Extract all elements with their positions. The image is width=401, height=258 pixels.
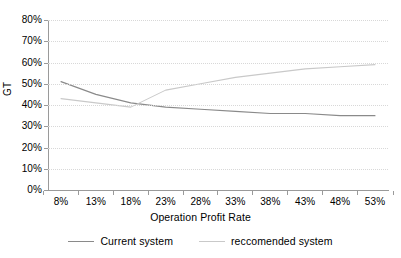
y-tick-label: 50% [4,79,42,89]
series-line-1 [61,82,375,116]
legend-line-icon [199,241,225,242]
chart-legend: Current systemreccomended system [0,236,401,247]
x-tick-mark [252,191,253,195]
gridline [48,126,388,128]
gridline [48,63,388,65]
gridline [48,148,388,150]
y-tick-label: 40% [4,100,42,110]
x-tick-mark [393,191,394,195]
legend-label: Current system [100,236,173,247]
y-tick-label: 20% [4,143,42,153]
y-tick-label: 70% [4,36,42,46]
y-tick-label: 80% [4,15,42,25]
x-tick-mark [287,191,288,195]
y-tick-mark [44,190,48,191]
x-tick-mark [183,191,184,195]
gridline [48,41,388,43]
x-tick-mark [43,191,44,195]
y-tick-mark [44,169,48,170]
legend-label: reccomended system [231,236,333,247]
x-tick-mark [217,191,218,195]
y-tick-mark [44,20,48,21]
plot-area [48,20,388,190]
y-tick-label: 60% [4,58,42,68]
y-tick-mark [44,41,48,42]
gridline [48,20,388,22]
legend-item[interactable]: Current system [68,236,173,247]
y-tick-mark [44,63,48,64]
x-tick-mark [357,191,358,195]
gridline [48,169,388,171]
series-line-2 [61,65,375,108]
gridline [48,105,388,107]
y-tick-mark [44,84,48,85]
x-tick-label: 53% [355,196,395,207]
gridline [48,84,388,86]
y-tick-label: 10% [4,164,42,174]
x-tick-mark [78,191,79,195]
y-tick-mark [44,105,48,106]
y-tick-label: 0% [4,185,42,195]
x-axis-line [48,190,389,191]
legend-line-icon [68,241,94,242]
y-tick-label: 30% [4,121,42,131]
y-tick-mark [44,148,48,149]
legend-item[interactable]: reccomended system [199,236,333,247]
x-tick-mark [113,191,114,195]
x-axis-title: Operation Profit Rate [0,211,401,223]
y-tick-mark [44,126,48,127]
x-tick-mark [322,191,323,195]
chart-container: GT 0%10%20%30%40%50%60%70%80% 8%13%18%23… [0,0,401,258]
x-tick-mark [148,191,149,195]
